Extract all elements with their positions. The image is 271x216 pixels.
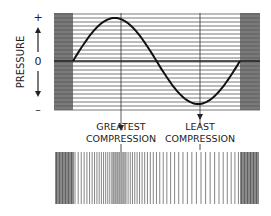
- greatest-label-line2: COMPRESSION: [86, 133, 156, 144]
- minus-label: –: [35, 103, 41, 116]
- density-strip: [55, 152, 259, 204]
- zero-label: 0: [35, 55, 42, 68]
- least-arrow-icon: [197, 114, 203, 120]
- y-axis-label: PRESSURE: [15, 36, 26, 89]
- plus-label: +: [33, 11, 42, 24]
- least-label-line1: LEAST: [185, 121, 215, 132]
- pressure-wave-diagram: PRESSURE + 0 – GREATEST COMPRESSION LEAS…: [0, 0, 271, 216]
- up-arrow-icon: [35, 27, 41, 33]
- down-arrow-icon: [35, 91, 41, 97]
- greatest-label-line1: GREATEST: [96, 121, 146, 132]
- least-label-line2: COMPRESSION: [165, 133, 235, 144]
